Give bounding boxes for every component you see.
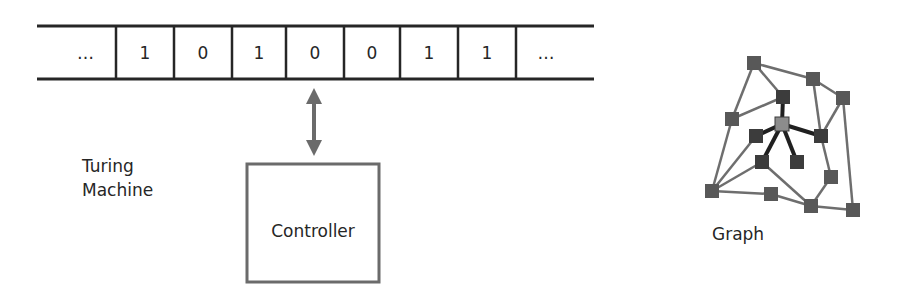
- tape-cell: 1: [482, 43, 493, 63]
- graph-edge: [754, 63, 813, 79]
- tape-cell: 0: [198, 43, 209, 63]
- tape-cell: …: [538, 43, 555, 63]
- turing-machine-label-line1: Turing: [81, 156, 134, 176]
- graph-edges: [712, 63, 853, 210]
- tape-cell: 1: [424, 43, 435, 63]
- turing-machine-vs-graph-diagram: …1010011… Turing Machine Controller Grap…: [0, 0, 897, 304]
- graph-edge: [843, 98, 853, 210]
- tape-cell: 1: [140, 43, 151, 63]
- controller-label: Controller: [271, 221, 355, 241]
- graph-node: [776, 90, 790, 104]
- tape-cell: …: [77, 43, 94, 63]
- graph-node: [846, 203, 860, 217]
- graph-node: [824, 170, 838, 184]
- turing-machine-label-line2: Machine: [82, 180, 153, 200]
- graph-node: [790, 155, 804, 169]
- graph-label: Graph: [712, 224, 764, 244]
- graph-edge: [813, 79, 821, 136]
- graph-node: [836, 91, 850, 105]
- tape-cells: …1010011…: [77, 43, 555, 63]
- graph-node: [804, 199, 818, 213]
- graph-node: [749, 129, 763, 143]
- graph-node: [747, 56, 761, 70]
- graph-node: [764, 187, 778, 201]
- tape-cell: 0: [310, 43, 321, 63]
- graph-node: [755, 155, 769, 169]
- graph-edge: [712, 191, 771, 194]
- graph-node: [725, 112, 739, 126]
- graph-node: [705, 184, 719, 198]
- graph-node: [814, 129, 828, 143]
- graph-node: [806, 72, 820, 86]
- tape-cell: 0: [367, 43, 378, 63]
- tape-cell: 1: [254, 43, 265, 63]
- graph-node: [775, 117, 789, 131]
